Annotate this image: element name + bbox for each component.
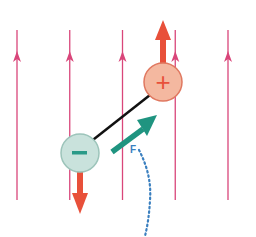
field-lines	[13, 30, 232, 200]
dipole-rod	[89, 95, 150, 143]
positive-charge: +	[144, 63, 182, 101]
force-arrow-positive	[155, 20, 171, 66]
dipole-diagram: + F	[0, 0, 256, 237]
negative-charge-symbol	[72, 151, 87, 155]
positive-charge-symbol: +	[155, 67, 170, 97]
negative-charge	[61, 134, 99, 172]
rotation-path	[139, 150, 150, 236]
force-arrow-negative	[72, 171, 88, 214]
force-label: F	[130, 144, 136, 155]
